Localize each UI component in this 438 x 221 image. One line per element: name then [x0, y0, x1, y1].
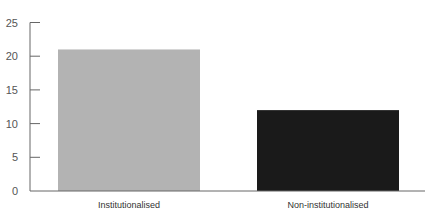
y-tick-label: 20 [6, 50, 18, 62]
bars [58, 49, 399, 191]
x-category-label: Institutionalised [98, 200, 160, 210]
x-category-label: Non-institutionalised [287, 200, 368, 210]
y-tick-label: 5 [12, 151, 18, 163]
bar-chart: 0510152025 InstitutionalisedNon-institut… [0, 0, 438, 221]
y-axis: 0510152025 [6, 17, 40, 198]
y-tick-label: 10 [6, 118, 18, 130]
y-tick-label: 15 [6, 84, 18, 96]
x-axis: InstitutionalisedNon-institutionalised [30, 191, 425, 210]
bar-institutionalised [58, 49, 200, 191]
bar-non-institutionalised [257, 110, 399, 191]
y-tick-label: 25 [6, 17, 18, 29]
y-tick-label: 0 [12, 185, 18, 197]
